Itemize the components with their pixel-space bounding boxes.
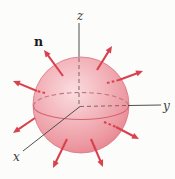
diagram-canvas: n z y x [0, 0, 175, 179]
figure-sphere-normal-vectors: n z y x [0, 0, 175, 179]
normal-arrow-head [135, 71, 143, 77]
z-axis-label: z [76, 9, 84, 23]
normal-arrow-shaft [18, 118, 35, 130]
normal-vector-label: n [34, 34, 43, 49]
y-axis-line [128, 105, 161, 106]
normal-arrow-shaft [18, 83, 37, 91]
x-axis-label: x [13, 150, 20, 164]
sphere [33, 57, 129, 153]
y-axis-label: y [162, 99, 170, 113]
normal-arrow-shaft [119, 73, 138, 80]
